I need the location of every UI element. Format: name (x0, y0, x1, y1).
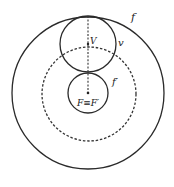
label-v: v (118, 37, 124, 48)
label-f: f (130, 11, 137, 24)
label-focus: F≡F′ (76, 98, 99, 108)
label-vertex: V (90, 36, 98, 46)
dashed-circle-f-prime (42, 47, 136, 141)
diagram-canvas: f v V f′ F≡F′ (0, 0, 174, 187)
focus-point (87, 92, 90, 95)
label-f-prime: f′ (111, 76, 119, 87)
vertex-point (87, 43, 89, 45)
